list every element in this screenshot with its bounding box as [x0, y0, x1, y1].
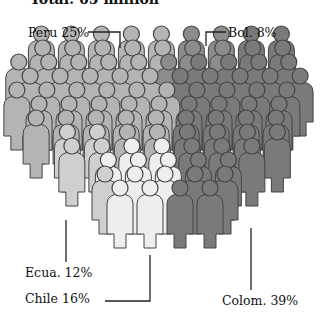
label-colombia: Colom. 39% [222, 293, 298, 308]
label-ecuador: Ecua. 12% [25, 265, 92, 280]
label-peru: Peru 25% [28, 25, 89, 40]
leader-line [105, 255, 150, 301]
label-bolivia: Bol. 8% [228, 25, 277, 40]
label-chile: Chile 16% [25, 291, 90, 306]
